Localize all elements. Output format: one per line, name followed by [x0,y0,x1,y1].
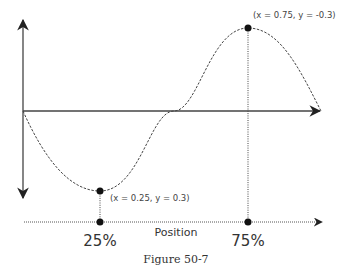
tick-label-25: 25% [83,232,116,250]
max-point [245,25,252,32]
max-point-label: (x = 0.75, y = -0.3) [253,10,336,20]
sine-curve [23,28,321,191]
tick-point-25 [97,219,104,226]
min-point-label: (x = 0.25, y = 0.3) [110,193,190,203]
min-point [97,188,104,195]
position-axis-title: Position [155,226,198,239]
tick-point-75 [245,219,252,226]
figure-caption: Figure 50-7 [143,253,208,266]
figure-canvas: (x = 0.75, y = -0.3) (x = 0.25, y = 0.3)… [0,0,349,275]
tick-label-75: 75% [231,232,264,250]
